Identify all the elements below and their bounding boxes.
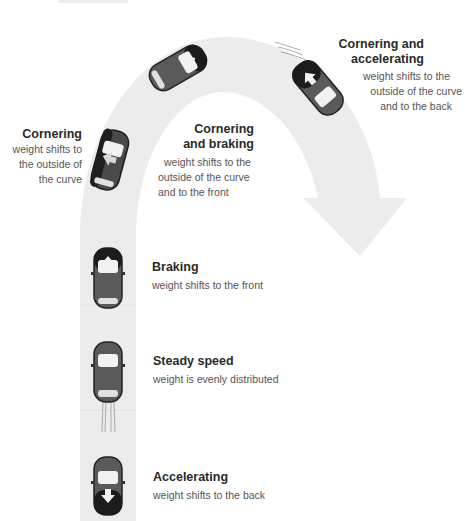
- desc-line: outside of the curve: [158, 170, 278, 185]
- title-cornering-accelerating: Cornering and: [330, 37, 424, 52]
- title-cornering-accelerating: accelerating: [330, 52, 424, 67]
- desc-line: weight is evenly distributed: [153, 372, 353, 387]
- label-braking: Braking weight shifts to the front: [152, 260, 352, 293]
- desc-cornering-and-braking: weight shifts to the outside of the curv…: [158, 155, 278, 200]
- label-cornering: Cornering weight shifts to the outside o…: [0, 127, 82, 187]
- desc-line: weight shifts to the: [158, 155, 278, 170]
- desc-line: weight shifts to: [0, 142, 82, 157]
- car-braking: [91, 248, 125, 308]
- desc-line: the curve: [0, 172, 82, 187]
- label-accelerating: Accelerating weight shifts to the back: [153, 470, 353, 503]
- desc-line: the outside of: [0, 157, 82, 172]
- label-cornering-and-accelerating: Cornering and accelerating: [330, 37, 424, 67]
- title-cornering-braking: Cornering: [140, 122, 254, 137]
- weight-transfer-diagram: Cornering weight shifts to the outside o…: [0, 0, 465, 521]
- label-cornering-and-braking: Cornering and braking: [140, 122, 254, 152]
- title-steady-speed: Steady speed: [153, 354, 353, 369]
- title-braking: Braking: [152, 260, 352, 275]
- label-steady-speed: Steady speed weight is evenly distribute…: [153, 354, 353, 387]
- desc-cornering-and-accelerating: weight shifts to the outside of the curv…: [340, 69, 462, 114]
- title-accelerating: Accelerating: [153, 470, 353, 485]
- desc-line: weight shifts to the back: [153, 488, 353, 503]
- desc-line: weight shifts to the: [340, 69, 462, 84]
- desc-line: and to the back: [340, 99, 462, 114]
- desc-line: outside of the curve: [340, 84, 462, 99]
- title-cornering-braking: and braking: [140, 137, 254, 152]
- car-accelerating: [91, 457, 125, 515]
- title-cornering: Cornering: [0, 127, 82, 142]
- desc-line: and to the front: [158, 185, 278, 200]
- desc-line: weight shifts to the front: [152, 278, 352, 293]
